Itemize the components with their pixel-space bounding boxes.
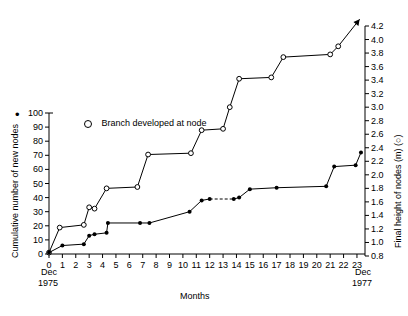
chart-axes: 01020304050607080901000.81.01.21.41.61.8… [28,21,384,270]
data-point-open-circle [104,186,109,191]
x-axis-start-caption-line2: 1975 [38,279,58,288]
data-point-filled-circle [105,231,109,235]
data-point-open-circle [328,52,333,57]
svg-text:3.4: 3.4 [371,75,384,85]
series-0-segment [49,228,60,253]
data-point-filled-circle [359,150,363,154]
svg-text:2.8: 2.8 [371,116,384,126]
svg-text:80: 80 [33,136,43,146]
filled-circle-key-bullet: • [15,108,20,121]
data-point-open-circle [269,75,274,80]
svg-text:2.0: 2.0 [371,170,384,180]
series-1-segment [356,152,361,165]
data-point-open-circle [189,151,194,156]
svg-text:1.8: 1.8 [371,183,384,193]
data-point-open-circle [336,44,341,49]
series-0-segment [191,130,202,153]
x-axis-end-caption-line1: Dec [355,268,371,277]
svg-text:3: 3 [87,260,92,270]
svg-text:10: 10 [178,260,188,270]
x-axis-title: Months [180,292,210,301]
svg-text:18: 18 [285,260,295,270]
svg-text:2.6: 2.6 [371,129,384,139]
x-axis-start-caption-line1: Dec [41,268,57,277]
series-1-segment [190,200,202,211]
svg-text:1: 1 [60,260,65,270]
chart-figure: 01020304050607080901000.81.01.21.41.61.8… [0,0,408,316]
data-point-filled-circle [324,184,328,188]
svg-text:1.0: 1.0 [371,237,384,247]
svg-text:3.8: 3.8 [371,48,384,58]
svg-text:3.6: 3.6 [371,62,384,72]
data-point-filled-circle [232,197,236,201]
svg-text:20: 20 [33,221,43,231]
svg-text:5: 5 [113,260,118,270]
data-point-open-circle [81,222,86,227]
data-point-filled-circle [60,244,64,248]
svg-text:7: 7 [140,260,145,270]
chart-legend: Branch developed at node [84,114,207,132]
y-axis-left-title: Cumulative number of new nodes [11,124,20,258]
series-1-segment [334,165,355,166]
svg-text:1.4: 1.4 [371,210,384,220]
data-point-open-circle [227,105,232,110]
series-0-segment [137,155,148,187]
svg-text:22: 22 [339,260,349,270]
svg-text:2.4: 2.4 [371,143,384,153]
data-point-open-circle [146,152,151,157]
series-0-segment [271,57,283,77]
series-1-segment [326,167,334,187]
data-point-filled-circle [332,165,336,169]
data-point-open-circle [221,126,226,131]
chart-plot-area [47,19,363,255]
y-axis-right-title: Final height of nodes (m) (○) [394,135,403,248]
svg-text:19: 19 [298,260,308,270]
data-point-filled-circle [275,186,279,190]
data-point-open-circle [281,55,286,60]
series-0-segment [60,225,84,228]
open-circle-icon [84,120,92,128]
svg-text:10: 10 [33,235,43,245]
svg-text:2.2: 2.2 [371,156,384,166]
x-axis-end-caption-line2: 1977 [352,279,372,288]
data-point-open-circle [57,225,62,230]
data-point-open-circle [87,205,92,210]
svg-text:2: 2 [73,260,78,270]
series-0-segment [107,187,138,188]
svg-text:8: 8 [154,260,159,270]
svg-text:12: 12 [205,260,215,270]
data-point-open-circle [92,206,97,211]
svg-text:14: 14 [231,260,241,270]
svg-text:40: 40 [33,193,43,203]
data-point-filled-circle [106,221,110,225]
svg-text:16: 16 [258,260,268,270]
series-0-segment [148,153,191,154]
series-1-segment [277,186,327,187]
data-point-filled-circle [82,242,86,246]
data-point-filled-circle [47,251,51,255]
svg-text:3.2: 3.2 [371,89,384,99]
svg-text:100: 100 [28,108,43,118]
svg-text:6: 6 [127,260,132,270]
series-end-arrow [353,19,359,26]
svg-text:30: 30 [33,207,43,217]
svg-text:70: 70 [33,150,43,160]
svg-text:1.2: 1.2 [371,224,384,234]
series-1-segment [239,189,250,197]
svg-text:17: 17 [272,260,282,270]
data-point-filled-circle [237,196,241,200]
series-0-segment [230,79,239,107]
svg-text:9: 9 [167,260,172,270]
svg-text:4.0: 4.0 [371,35,384,45]
svg-text:4.2: 4.2 [371,21,384,31]
series-0-segment [283,54,330,57]
series-0-segment [223,107,230,129]
data-point-filled-circle [87,234,91,238]
svg-text:13: 13 [218,260,228,270]
svg-text:0: 0 [38,249,43,259]
svg-text:21: 21 [325,260,335,270]
svg-text:1.6: 1.6 [371,197,384,207]
series-1-segment [62,244,83,245]
svg-text:11: 11 [192,260,201,270]
legend-label-branch: Branch developed at node [101,119,206,128]
